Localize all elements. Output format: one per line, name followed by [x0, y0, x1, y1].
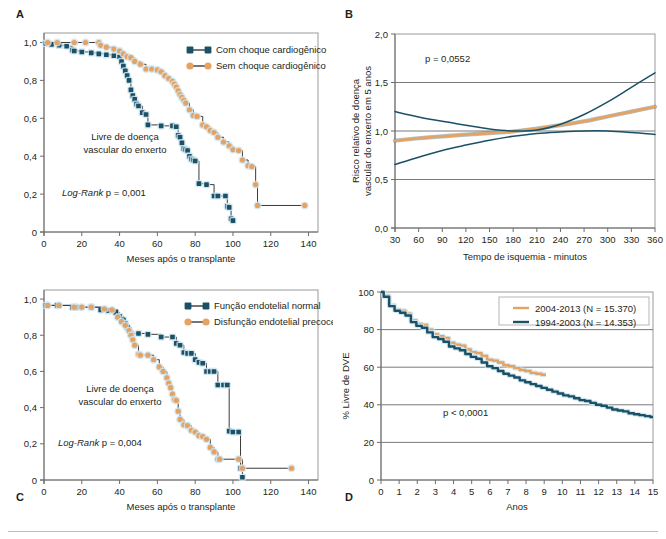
svg-text:0,6: 0,6 [24, 366, 37, 377]
svg-text:0,4: 0,4 [24, 151, 37, 162]
svg-text:Meses após o transplante: Meses após o transplante [127, 253, 236, 264]
svg-text:vascular do enxerto em 5 anos: vascular do enxerto em 5 anos [362, 66, 373, 196]
svg-text:120: 120 [263, 486, 279, 497]
svg-text:270: 270 [576, 234, 592, 245]
svg-text:% Livre de DVE: % Livre de DVE [340, 352, 351, 419]
svg-text:1,0: 1,0 [375, 126, 388, 137]
svg-text:0,2: 0,2 [24, 438, 37, 449]
svg-text:40: 40 [363, 399, 374, 410]
svg-text:0,4: 0,4 [24, 402, 37, 413]
svg-text:20: 20 [77, 238, 88, 249]
svg-text:p = 0,0552: p = 0,0552 [425, 53, 470, 64]
svg-text:Sem choque cardiogênico: Sem choque cardiogênico [216, 60, 326, 71]
panel-letter-a: A [16, 8, 24, 20]
svg-text:60: 60 [152, 486, 163, 497]
svg-text:Função endotelial normal: Função endotelial normal [214, 300, 321, 311]
svg-text:vascular do enxerto: vascular do enxerto [79, 396, 162, 407]
panel-b-svg: 0,00,51,01,52,03060901201501802102402703… [333, 0, 666, 270]
legend: Com choque cardiogênicoSem choque cardio… [186, 44, 326, 71]
svg-text:Livre de doença: Livre de doença [91, 131, 159, 142]
svg-text:360: 360 [647, 234, 663, 245]
svg-text:8: 8 [523, 486, 528, 497]
svg-text:Com choque cardiogênico: Com choque cardiogênico [216, 44, 326, 55]
svg-text:60: 60 [363, 362, 374, 373]
svg-text:0,5: 0,5 [375, 174, 388, 185]
svg-text:140: 140 [301, 486, 317, 497]
svg-text:0,0: 0,0 [375, 223, 388, 234]
svg-text:2004-2013 (N = 15.370): 2004-2013 (N = 15.370) [535, 303, 636, 314]
svg-text:Tempo de isquemia - minutos: Tempo de isquemia - minutos [463, 251, 587, 262]
svg-text:240: 240 [553, 234, 569, 245]
panel-c-svg: 00,20,40,60,81,0020406080100120140Meses … [0, 268, 333, 520]
svg-text:12: 12 [593, 486, 604, 497]
svg-text:0,6: 0,6 [24, 113, 37, 124]
svg-text:0: 0 [32, 227, 37, 238]
svg-text:7: 7 [505, 486, 510, 497]
svg-text:140: 140 [301, 238, 317, 249]
panel-letter-c: C [16, 491, 24, 503]
legend: Função endotelial normalDisfunção endote… [184, 300, 333, 327]
svg-text:180: 180 [505, 234, 521, 245]
svg-text:13: 13 [611, 486, 622, 497]
svg-text:0: 0 [32, 475, 37, 486]
svg-text:150: 150 [482, 234, 498, 245]
svg-text:1994-2003 (N = 14.353): 1994-2003 (N = 14.353) [535, 317, 636, 328]
svg-text:60: 60 [413, 234, 424, 245]
panel-d-chart: D 0204060801000123456789101112131415Anos… [333, 268, 666, 520]
svg-text:11: 11 [576, 486, 586, 497]
svg-text:80: 80 [190, 486, 201, 497]
svg-text:9: 9 [542, 486, 547, 497]
svg-text:5: 5 [469, 486, 474, 497]
svg-text:30: 30 [390, 234, 401, 245]
svg-text:120: 120 [263, 238, 279, 249]
svg-text:100: 100 [225, 486, 241, 497]
svg-text:40: 40 [114, 486, 125, 497]
figure-footer-rule [8, 531, 658, 532]
panel-letter-d: D [345, 491, 353, 503]
svg-text:Log-Rank p = 0,004: Log-Rank p = 0,004 [58, 437, 142, 448]
svg-text:100: 100 [358, 287, 374, 298]
panel-a-chart: A 00,20,40,60,81,0020406080100120140Mese… [0, 0, 333, 270]
svg-text:3: 3 [433, 486, 438, 497]
svg-text:1,5: 1,5 [375, 77, 388, 88]
figure-container: A 00,20,40,60,81,0020406080100120140Mese… [0, 0, 666, 539]
svg-text:80: 80 [363, 324, 374, 335]
svg-text:Log-Rank p = 0,001: Log-Rank p = 0,001 [62, 187, 146, 198]
svg-text:20: 20 [363, 437, 374, 448]
svg-text:10: 10 [557, 486, 568, 497]
svg-text:Risco relativo de doença: Risco relativo de doença [350, 78, 361, 183]
svg-text:0,8: 0,8 [24, 330, 37, 341]
svg-text:1: 1 [396, 486, 401, 497]
legend: 2004-2013 (N = 15.370)1994-2003 (N = 14.… [499, 297, 649, 328]
panel-letter-b: B [345, 8, 353, 20]
svg-text:80: 80 [190, 238, 201, 249]
panel-d-svg: 0204060801000123456789101112131415Anos% … [333, 268, 666, 520]
svg-text:0: 0 [41, 486, 46, 497]
svg-text:100: 100 [225, 238, 241, 249]
svg-text:Anos: Anos [506, 501, 528, 512]
svg-text:1,0: 1,0 [24, 294, 37, 305]
svg-text:vascular do enxerto: vascular do enxerto [84, 144, 167, 155]
svg-text:0: 0 [378, 486, 383, 497]
svg-text:15: 15 [648, 486, 659, 497]
svg-text:2,0: 2,0 [375, 29, 388, 40]
svg-text:2: 2 [415, 486, 420, 497]
panel-c-chart: C 00,20,40,60,81,0020406080100120140Mese… [0, 268, 333, 520]
panel-b-chart: B 0,00,51,01,52,030609012015018021024027… [333, 0, 666, 270]
svg-text:20: 20 [77, 486, 88, 497]
svg-text:14: 14 [630, 486, 641, 497]
panel-a-svg: 00,20,40,60,81,0020406080100120140Meses … [0, 0, 333, 270]
svg-text:p < 0,0001: p < 0,0001 [443, 407, 488, 418]
svg-text:300: 300 [600, 234, 616, 245]
svg-text:1,0: 1,0 [24, 37, 37, 48]
svg-text:6: 6 [487, 486, 492, 497]
svg-text:90: 90 [437, 234, 448, 245]
svg-text:Meses após o transplante: Meses após o transplante [127, 501, 236, 512]
svg-text:0,2: 0,2 [24, 189, 37, 200]
svg-text:4: 4 [451, 486, 456, 497]
svg-text:0: 0 [369, 475, 374, 486]
svg-text:120: 120 [458, 234, 474, 245]
svg-text:60: 60 [152, 238, 163, 249]
svg-text:Livre de doença: Livre de doença [86, 383, 154, 394]
svg-text:210: 210 [529, 234, 545, 245]
